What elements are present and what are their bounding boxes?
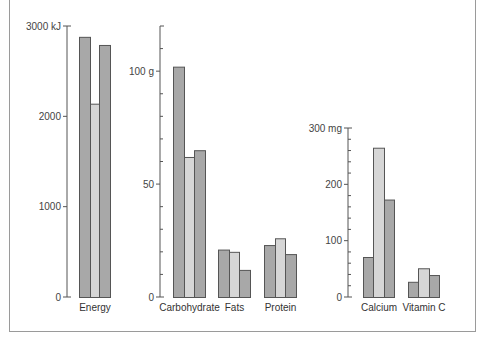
- chart-panel-kJ: 0100020003000 kJEnergy: [26, 21, 111, 314]
- bar-vitamin-c-2: [419, 269, 430, 298]
- y-tick-label: 3000 kJ: [26, 21, 61, 32]
- bar-vitamin-c-1: [409, 282, 419, 297]
- category-label: Calcium: [361, 302, 397, 313]
- bar-carbohydrate-1: [174, 67, 185, 297]
- y-tick-label: 0: [148, 292, 154, 303]
- nutrition-bar-charts: 0100020003000 kJEnergy050100 gCarbohydra…: [0, 0, 483, 338]
- y-tick-label: 1000: [39, 201, 62, 212]
- bar-calcium-2: [374, 148, 385, 297]
- y-tick-label: 0: [55, 292, 61, 303]
- y-tick-label: 200: [325, 179, 342, 190]
- chart-panel-g: 050100 gCarbohydrateFatsProtein: [129, 26, 297, 313]
- bar-carbohydrate-3: [195, 151, 206, 298]
- category-label: Protein: [265, 302, 297, 313]
- y-tick-label: 100: [325, 235, 342, 246]
- y-tick-label: 100 g: [129, 66, 154, 77]
- bar-protein-1: [265, 246, 276, 298]
- chart-panel-mg: 0100200300 mgCalciumVitamin C: [309, 123, 446, 314]
- y-tick-label: 2000: [39, 111, 62, 122]
- bar-calcium-3: [385, 200, 395, 297]
- bar-fats-1: [219, 250, 230, 297]
- bar-carbohydrate-2: [185, 157, 195, 297]
- bar-protein-2: [276, 239, 286, 298]
- category-label: Energy: [79, 302, 111, 313]
- y-tick-label: 50: [143, 179, 155, 190]
- bar-fats-2: [230, 252, 240, 297]
- bar-calcium-1: [364, 258, 374, 298]
- bar-energy-2: [91, 104, 100, 297]
- bar-vitamin-c-3: [430, 276, 440, 298]
- category-label: Fats: [225, 302, 244, 313]
- bar-fats-3: [240, 270, 251, 297]
- y-tick-label: 300 mg: [309, 123, 342, 134]
- y-tick-label: 0: [336, 292, 342, 303]
- category-label: Vitamin C: [402, 302, 445, 313]
- bar-protein-3: [286, 255, 297, 298]
- bar-energy-1: [80, 37, 91, 297]
- category-label: Carbohydrate: [159, 302, 220, 313]
- bar-energy-3: [100, 45, 111, 297]
